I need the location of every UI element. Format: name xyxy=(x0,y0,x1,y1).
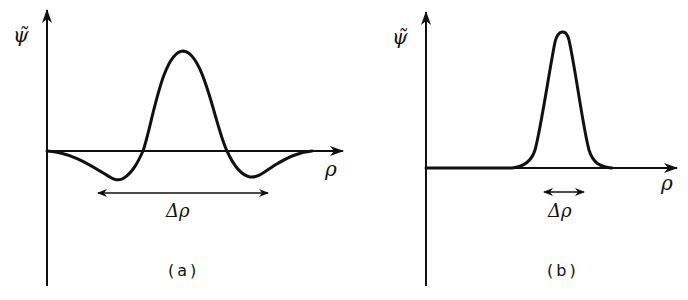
x-axis-label-b: ρ xyxy=(660,171,673,195)
wavefunction-curve-a xyxy=(47,51,312,180)
panel-caption-a: (a) xyxy=(168,261,199,280)
wavefunction-curve-b xyxy=(426,32,612,168)
y-axis-label-b: ψ̃ xyxy=(392,25,408,49)
delta-rho-label-b: Δρ xyxy=(547,200,572,221)
panel-b: Δρ ρ ψ̃ (b) xyxy=(392,12,677,286)
delta-rho-label-a: Δρ xyxy=(165,200,190,221)
x-axis-label-a: ρ xyxy=(324,157,337,181)
panel-caption-b: (b) xyxy=(547,261,579,280)
figure: Δρ ρ ψ̃ (a) Δρ ρ ψ̃ (b) xyxy=(0,0,688,300)
y-axis-label-a: ψ̃ xyxy=(13,23,29,47)
panel-a: Δρ ρ ψ̃ (a) xyxy=(13,10,343,286)
